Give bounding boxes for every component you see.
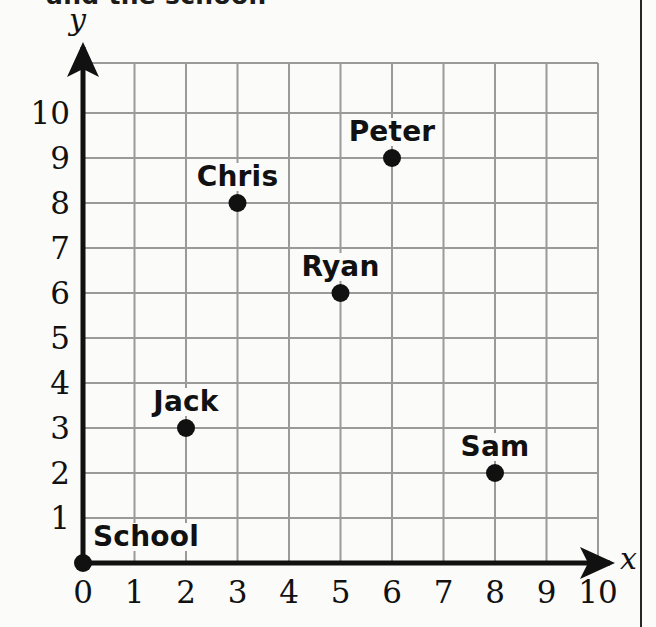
data-point-jack[interactable] xyxy=(177,419,195,437)
x-tick-label-4: 4 xyxy=(279,577,299,608)
x-tick-label-2: 2 xyxy=(176,577,196,608)
x-tick-label-1: 1 xyxy=(125,577,145,608)
y-axis-letter: y xyxy=(69,5,86,35)
y-tick-label-1: 1 xyxy=(50,503,70,534)
y-tick-label-9: 9 xyxy=(50,143,70,174)
page-border-rule xyxy=(640,0,642,627)
data-point-sam[interactable] xyxy=(486,464,504,482)
x-tick-label-3: 3 xyxy=(228,577,248,608)
point-label-ryan: Ryan xyxy=(299,253,381,281)
y-tick-label-8: 8 xyxy=(50,188,70,219)
x-tick-label-9: 9 xyxy=(537,577,557,608)
x-tick-label-6: 6 xyxy=(382,577,402,608)
point-label-peter: Peter xyxy=(347,118,438,146)
data-point-school[interactable] xyxy=(74,554,92,572)
x-tick-label-0: 0 xyxy=(73,577,93,608)
x-axis-letter: x xyxy=(620,544,637,574)
data-point-ryan[interactable] xyxy=(332,284,350,302)
x-tick-label-10: 10 xyxy=(578,577,617,608)
y-tick-label-5: 5 xyxy=(50,323,70,354)
coordinate-plane: 12345678910012345678910 SchoolJackChrisR… xyxy=(0,0,640,627)
worksheet-page: and the school. 12345678910012345678910 … xyxy=(0,0,656,627)
x-tick-label-7: 7 xyxy=(434,577,454,608)
y-tick-label-10: 10 xyxy=(31,98,70,129)
data-point-chris[interactable] xyxy=(229,194,247,212)
point-label-school: School xyxy=(91,523,201,551)
point-label-sam: Sam xyxy=(459,433,532,461)
data-point-peter[interactable] xyxy=(383,149,401,167)
point-label-jack: Jack xyxy=(151,388,220,416)
x-tick-label-5: 5 xyxy=(331,577,351,608)
y-tick-label-4: 4 xyxy=(50,368,70,399)
y-tick-label-7: 7 xyxy=(50,233,70,264)
point-label-chris: Chris xyxy=(195,163,281,191)
x-tick-label-8: 8 xyxy=(485,577,505,608)
y-tick-label-2: 2 xyxy=(50,458,70,489)
y-tick-label-6: 6 xyxy=(50,278,70,309)
y-tick-label-3: 3 xyxy=(50,413,70,444)
